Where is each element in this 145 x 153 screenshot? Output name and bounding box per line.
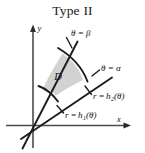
y-axis-label: y: [37, 23, 42, 33]
figure-title: Type II: [52, 3, 93, 18]
label-theta-alpha: θ = α: [101, 63, 121, 73]
leader-theta-beta: [67, 38, 73, 49]
y-axis-arrowhead: [30, 25, 36, 33]
x-axis-label: x: [116, 114, 121, 124]
label-r-h2: r = h 2 (θ): [93, 91, 124, 103]
label-r-h1: r = h 1 (θ): [65, 110, 96, 122]
label-r-h2-r: r: [93, 91, 97, 101]
figure-canvas: Type II y x: [0, 0, 145, 153]
polar-region-figure: Type II y x: [0, 0, 145, 153]
label-r-h2-equals: =: [99, 91, 105, 101]
label-r-h1-r: r: [65, 110, 69, 120]
x-axis-arrowhead: [124, 123, 132, 129]
leader-theta-alpha: [92, 70, 100, 76]
label-r-h2-arg: (θ): [114, 91, 124, 101]
label-r-h1-arg: (θ): [86, 110, 96, 120]
label-theta-beta: θ = β: [71, 28, 91, 38]
region-label-d: D: [53, 71, 62, 82]
region-d-fill: [44, 54, 84, 96]
label-r-h1-equals: =: [71, 110, 77, 120]
